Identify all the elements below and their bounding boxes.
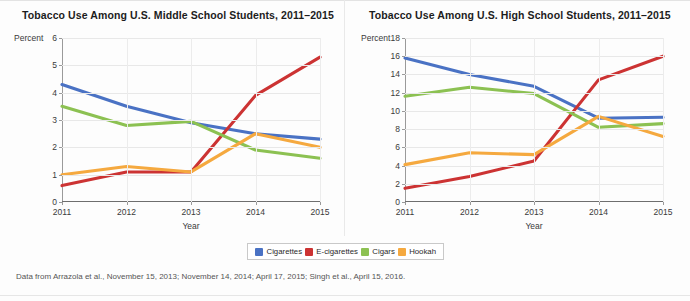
x-axis-tick-label: 2015 [311,207,330,217]
legend-item-label: Hookah [409,247,436,256]
x-axis-tick-mark [62,202,63,205]
y-axis-tick-label: 1 [52,170,57,180]
legend-item-label: Cigars [372,247,395,256]
legend-swatch-icon [398,248,406,256]
y-axis-tick-label: 4 [52,88,57,98]
gridline-vertical [599,38,600,202]
gridline-vertical [470,38,471,202]
y-axis-tick-mark [59,93,62,94]
y-axis-tick-label: 18 [391,33,400,43]
y-axis-tick-label: 6 [395,142,400,152]
x-axis-tick-label: 2013 [182,207,201,217]
y-axis-tick-label: 2 [395,179,400,189]
legend-swatch-icon [305,248,313,256]
figure-caption: Data from Arrazola et al., November 15, … [16,272,405,281]
y-axis-tick-mark [402,166,405,167]
gridline-vertical [534,38,535,202]
legend-swatch-icon [255,248,263,256]
x-axis-tick-label: 2011 [396,207,414,217]
x-axis-title-high-school: Year [525,221,542,231]
legend-item-cigarettes[interactable]: Cigarettes [255,247,302,256]
gridline-vertical [663,38,664,202]
gridline-vertical [320,38,321,202]
y-axis-tick-mark [59,175,62,176]
y-axis-tick-mark [59,120,62,121]
x-axis-tick-mark [405,202,406,205]
y-axis-tick-mark [59,38,62,39]
legend-item-hookah[interactable]: Hookah [398,247,436,256]
y-axis-tick-mark [402,93,405,94]
y-axis-label-middle-school: Percent [14,33,43,43]
gridline-vertical [256,38,257,202]
x-axis-tick-label: 2011 [53,207,71,217]
x-axis-tick-mark [191,202,192,205]
legend-item-label: Cigarettes [267,247,303,256]
chart-panels: Tobacco Use Among U.S. Middle School Stu… [0,0,690,236]
plot-area-middle-school: Year 012345620112012201320142015 [62,38,320,202]
x-axis-tick-label: 2012 [460,207,479,217]
y-axis-tick-mark [402,129,405,130]
x-axis-tick-mark [663,202,664,205]
y-axis-tick-mark [59,147,62,148]
y-axis-tick-mark [402,56,405,57]
x-axis-tick-mark [599,202,600,205]
y-axis-tick-label: 8 [395,124,400,134]
chart-panel-middle-school: Tobacco Use Among U.S. Middle School Stu… [0,0,345,236]
x-axis-tick-label: 2015 [654,207,673,217]
x-axis-tick-mark [127,202,128,205]
y-axis-tick-mark [402,184,405,185]
chart-panel-high-school: Tobacco Use Among U.S. High School Stude… [345,0,690,236]
chart-title-middle-school: Tobacco Use Among U.S. Middle School Stu… [22,9,334,21]
x-axis-tick-mark [320,202,321,205]
y-axis-tick-label: 12 [391,88,400,98]
y-axis-label-high-school: Percent [361,33,390,43]
y-axis-tick-label: 0 [52,197,57,207]
tobacco-use-figure: Tobacco Use Among U.S. Middle School Stu… [0,0,690,301]
y-axis-tick-label: 16 [391,51,400,61]
x-axis-tick-mark [256,202,257,205]
x-axis-tick-label: 2014 [589,207,608,217]
x-axis-tick-label: 2014 [246,207,265,217]
x-axis-tick-label: 2012 [117,207,136,217]
x-axis-tick-label: 2013 [525,207,544,217]
y-axis-tick-label: 5 [52,60,57,70]
legend-item-cigars[interactable]: Cigars [361,247,395,256]
legend-item-e-cigarettes[interactable]: E-cigarettes [305,247,358,256]
y-axis-tick-label: 6 [52,33,57,43]
y-axis-tick-mark [402,147,405,148]
y-axis-tick-label: 2 [52,142,57,152]
legend-swatch-icon [361,248,369,256]
y-axis-tick-mark [59,65,62,66]
x-axis-title-middle-school: Year [182,221,199,231]
y-axis-tick-mark [402,111,405,112]
legend-item-label: E-cigarettes [316,247,358,256]
y-axis-tick-label: 3 [52,115,57,125]
y-axis-tick-mark [402,38,405,39]
y-axis-tick-label: 10 [391,106,400,116]
x-axis-tick-mark [470,202,471,205]
gridline-vertical [127,38,128,202]
y-axis-tick-mark [402,74,405,75]
x-axis-tick-mark [534,202,535,205]
plot-area-high-school: Year 02468101214161820112012201320142015 [405,38,663,202]
y-axis-tick-label: 0 [395,197,400,207]
y-axis-tick-label: 4 [395,161,400,171]
chart-legend: CigarettesE-cigarettesCigarsHookah [247,243,444,260]
chart-title-high-school: Tobacco Use Among U.S. High School Stude… [369,9,671,21]
gridline-vertical [191,38,192,202]
figure-bottom-border [0,295,690,296]
y-axis-tick-label: 14 [391,69,400,79]
